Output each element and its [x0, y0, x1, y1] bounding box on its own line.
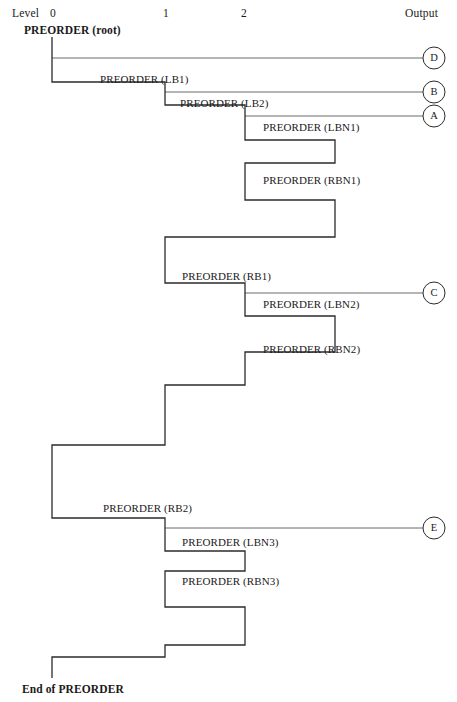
root-call-label: PREORDER (root)	[24, 25, 121, 37]
output-letter-D: D	[422, 46, 446, 70]
call-label-4: PREORDER (RB1)	[182, 271, 271, 282]
call-label-2: PREORDER (LBN1)	[263, 122, 360, 133]
call-label-5: PREORDER (LBN2)	[263, 299, 360, 310]
level-tick-2: 2	[241, 8, 247, 20]
call-label-1: PREORDER (LB2)	[180, 98, 269, 109]
call-label-7: PREORDER (RB2)	[103, 503, 192, 514]
call-label-8: PREORDER (LBN3)	[182, 537, 279, 548]
call-label-0: PREORDER (LB1)	[100, 74, 189, 85]
level-tick-1: 1	[163, 8, 169, 20]
call-label-9: PREORDER (RBN3)	[182, 576, 279, 587]
call-label-3: PREORDER (RBN1)	[263, 175, 360, 186]
call-label-6: PREORDER (RBN2)	[263, 344, 360, 355]
level-tick-0: 0	[50, 8, 56, 20]
output-letter-B: B	[422, 80, 446, 104]
output-letter-A: A	[422, 104, 446, 128]
level-axis-label: Level	[12, 8, 39, 20]
output-letter-C: C	[422, 281, 446, 305]
preorder-trace-diagram: Level 012 Output PREORDER (root) PREORDE…	[0, 0, 457, 702]
output-axis-label: Output	[405, 8, 438, 20]
output-letter-E: E	[422, 516, 446, 540]
output-branch-lines	[52, 58, 423, 528]
end-of-preorder-label: End of PREORDER	[22, 684, 124, 696]
